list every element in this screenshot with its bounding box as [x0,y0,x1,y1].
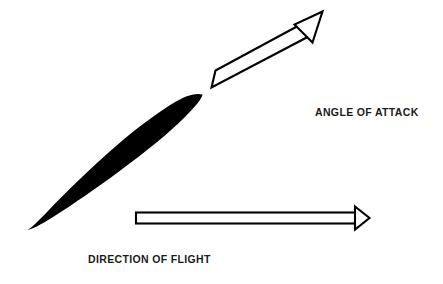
direction-of-flight-label: DIRECTION OF FLIGHT [88,254,211,265]
direction-of-flight-arrow-shaft [136,213,356,224]
direction-of-flight-arrow [136,207,370,230]
airfoil-shape [28,94,203,230]
angle-of-attack-label: ANGLE OF ATTACK [315,107,419,118]
angle-of-attack-arrow [212,12,323,88]
diagram-canvas [0,0,443,284]
direction-of-flight-arrowhead [355,207,370,230]
airfoil-angle-of-attack-diagram: ANGLE OF ATTACK DIRECTION OF FLIGHT [0,0,443,284]
angle-of-attack-arrow-shaft [212,24,310,88]
